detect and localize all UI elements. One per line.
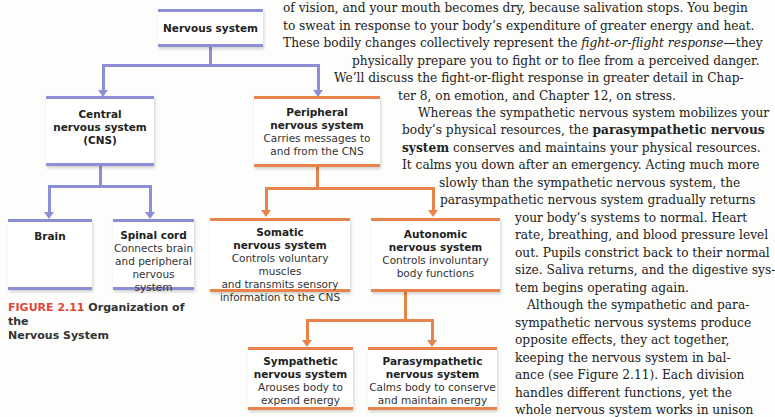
arrow-to-autonomic-icon	[428, 210, 438, 217]
node-central-nervous-system: Central nervous system (CNS)	[46, 96, 154, 166]
body-text-line: Whereas the sympathetic nervous system m…	[418, 105, 769, 122]
node-title: nervous system	[368, 368, 497, 381]
node-description: Controls voluntary muscles	[210, 252, 350, 278]
connector-to-pns	[317, 64, 320, 92]
bold-term: parasympathetic nervous	[593, 123, 765, 137]
node-somatic-nervous-system: Somatic nervous system Controls voluntar…	[210, 218, 350, 292]
figure-label: FIGURE 2.11	[8, 301, 85, 314]
body-text-line: These bodily changes collectively repres…	[283, 35, 763, 52]
connector-root-horizontal	[102, 64, 320, 67]
text-run: These bodily changes collectively repres…	[283, 36, 581, 50]
node-autonomic-nervous-system: Autonomic nervous system Controls involu…	[371, 218, 500, 292]
body-text-line: body’s physical resources, the parasympa…	[402, 122, 765, 139]
body-text-line: physically prepare you to fight or to fl…	[352, 53, 759, 70]
node-description: Arouses body to	[248, 381, 353, 394]
body-text-line: keeping the nervous system in bal-	[515, 350, 731, 367]
figure-caption: FIGURE 2.11 Organization of the Nervous …	[8, 301, 208, 343]
connector-root-down	[209, 46, 212, 66]
body-text-line: whole nervous system works in unison	[515, 402, 753, 417]
node-description: Connects brain	[113, 242, 194, 255]
node-description: Calms body to conserve	[368, 381, 497, 394]
connector-autonomic-down	[404, 291, 407, 321]
node-title: (CNS)	[46, 134, 154, 147]
arrow-to-brain-icon	[44, 212, 54, 219]
body-text-line: of vision, and your mouth becomes dry, b…	[283, 0, 748, 17]
connector-cns-down	[99, 165, 102, 187]
node-title: Nervous system	[158, 22, 263, 35]
connector-to-brain	[48, 185, 51, 213]
node-description: Carries messages to	[254, 132, 380, 145]
text-run: —they	[724, 36, 763, 50]
connector-to-sympathetic	[306, 319, 309, 342]
arrow-to-spinal-cord-icon	[145, 212, 155, 219]
connector-to-spinal-cord	[149, 185, 152, 213]
node-description: nervous system	[113, 268, 194, 294]
body-text-line: sympathetic nervous systems produce	[515, 315, 751, 332]
bold-term: system	[402, 141, 449, 155]
body-text-line: system conserves and maintains your phys…	[402, 140, 761, 157]
body-text-line: ance (see Figure 2.11). Each division	[515, 367, 744, 384]
body-text-line: We’ll discuss the fight-or-flight respon…	[334, 70, 744, 87]
connector-cns-horizontal	[48, 185, 152, 188]
node-title: Sympathetic	[248, 355, 353, 368]
italic-term: fight-or-flight response	[581, 36, 723, 50]
text-run: conserves and maintains your physical re…	[453, 141, 761, 155]
connector-to-somatic	[265, 187, 268, 212]
body-text-line: opposite effects, they act together,	[515, 332, 729, 349]
node-sympathetic-nervous-system: Sympathetic nervous system Arouses body …	[248, 347, 353, 410]
caption-text: Nervous System	[8, 329, 109, 342]
node-description: and from the CNS	[254, 145, 380, 158]
node-description: expend energy	[248, 394, 353, 407]
body-text-line: Although the sympathetic and para-	[527, 297, 749, 314]
body-text-line: It calms you down after an emergency. Ac…	[402, 157, 759, 174]
node-title: nervous system	[248, 368, 353, 381]
connector-pns-down	[316, 167, 319, 189]
node-title: Parasympathetic	[368, 355, 497, 368]
node-title: Spinal cord	[113, 229, 194, 242]
node-description: and maintain energy	[368, 394, 497, 407]
node-title: Central	[46, 108, 154, 121]
body-text-line: handles different functions, yet the	[515, 385, 732, 402]
node-title: Peripheral	[254, 106, 380, 119]
connector-to-parasympathetic	[431, 319, 434, 342]
node-title: nervous system	[46, 121, 154, 134]
arrow-to-parasympathetic-icon	[427, 340, 437, 347]
node-spinal-cord: Spinal cord Connects brain and periphera…	[113, 219, 194, 290]
arrow-to-somatic-icon	[261, 210, 271, 217]
connector-pns-horizontal	[265, 187, 435, 190]
body-text-line: slowly than the sympathetic nervous syst…	[439, 175, 740, 192]
node-description: information to the CNS	[210, 291, 350, 304]
node-title: nervous system	[254, 119, 380, 132]
node-title: Somatic	[210, 226, 350, 239]
connector-to-autonomic	[432, 187, 435, 212]
connector-autonomic-horizontal	[306, 319, 434, 322]
node-nervous-system: Nervous system	[158, 9, 263, 47]
connector-to-cns	[102, 64, 105, 92]
body-text-line: to sweat in response to your body’s expe…	[283, 18, 755, 35]
node-description: and peripheral	[113, 255, 194, 268]
node-title: Autonomic	[371, 228, 500, 241]
node-description: body functions	[371, 267, 500, 280]
arrow-to-sympathetic-icon	[302, 340, 312, 347]
body-text-line: rate, breathing, and blood pressure leve…	[515, 227, 768, 244]
node-title: nervous system	[210, 239, 350, 252]
node-brain: Brain	[8, 219, 92, 290]
node-title: nervous system	[371, 241, 500, 254]
text-run: body’s physical resources, the	[402, 123, 589, 137]
body-text-line: size. Saliva returns, and the digestive …	[515, 262, 775, 279]
node-peripheral-nervous-system: Peripheral nervous system Carries messag…	[254, 96, 380, 167]
node-description: Controls involuntary	[371, 254, 500, 267]
body-text-line: out. Pupils constrict back to their norm…	[515, 245, 770, 262]
node-parasympathetic-nervous-system: Parasympathetic nervous system Calms bod…	[368, 347, 497, 410]
body-text-line: your body’s systems to normal. Heart	[515, 210, 747, 227]
body-text-line: ter 8, on emotion, and Chapter 12, on st…	[398, 88, 676, 105]
node-title: Brain	[8, 230, 92, 243]
body-text-line: parasympathetic nervous system gradually…	[440, 192, 755, 209]
body-text-line: tem begins operating again.	[515, 280, 689, 297]
node-description: and transmits sensory	[210, 278, 350, 291]
